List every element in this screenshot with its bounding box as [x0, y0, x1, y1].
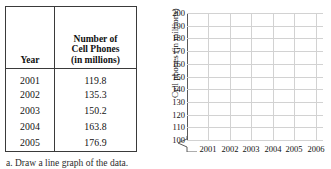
gridline-vertical — [273, 13, 274, 141]
cell-year: 2001 — [6, 69, 55, 87]
cell-value: 163.8 — [55, 119, 137, 135]
cell-value: 135.3 — [55, 87, 137, 103]
cell-value: 119.8 — [55, 69, 137, 87]
table-row: 2002 135.3 — [6, 87, 137, 103]
column-header-line-1: Number of — [55, 34, 136, 45]
axis-break-icon — [175, 136, 197, 152]
cell-phones-data-table: Year Number of Cell Phones (in millions)… — [5, 6, 136, 152]
table-caption: a. Draw a line graph of the data. — [6, 157, 146, 169]
cell-value: 176.9 — [55, 135, 137, 151]
y-tick-label: 130 — [159, 98, 185, 107]
gridline-vertical — [208, 13, 209, 141]
gridline-vertical — [316, 13, 317, 141]
y-tick-label: 160 — [159, 60, 185, 69]
table-head: Year Number of Cell Phones (in millions) — [6, 7, 137, 69]
gridline-vertical — [230, 13, 231, 141]
y-tick-label: 140 — [159, 85, 185, 94]
column-header-line-2: Cell Phones — [55, 44, 136, 55]
table-header-row: Year Number of Cell Phones (in millions) — [6, 7, 137, 69]
column-header-number-of-cell-phones: Number of Cell Phones (in millions) — [55, 7, 137, 69]
y-tick-label: 120 — [159, 111, 185, 120]
y-tick-label: 190 — [159, 22, 185, 31]
x-tick-label: 2006 — [301, 145, 331, 154]
gridline-vertical — [294, 13, 295, 141]
table-row: 2004 163.8 — [6, 119, 137, 135]
gridline-vertical — [251, 13, 252, 141]
table: Year Number of Cell Phones (in millions)… — [5, 6, 137, 152]
y-tick-label: 180 — [159, 34, 185, 43]
table-row: 2001 119.8 — [6, 69, 137, 87]
table-row: 2005 176.9 — [6, 135, 137, 151]
cell-year: 2005 — [6, 135, 55, 151]
cell-year: 2002 — [6, 87, 55, 103]
table-row: 2003 150.2 — [6, 103, 137, 119]
y-tick-label: 150 — [159, 73, 185, 82]
cell-value: 150.2 — [55, 103, 137, 119]
cell-year: 2004 — [6, 119, 55, 135]
y-tick-label: 200 — [159, 9, 185, 18]
y-tick-label: 110 — [159, 123, 185, 132]
table-body: 2001 119.8 2002 135.3 2003 150.2 2004 16… — [6, 69, 137, 152]
line-graph-axes: Cell phones (in millions) 20019018017016… — [152, 0, 331, 169]
column-header-year: Year — [6, 7, 55, 69]
y-tick-label: 170 — [159, 47, 185, 56]
plot-area: 200190180170160150140130120110100 200120… — [187, 13, 323, 141]
column-header-line-3: (in millions) — [55, 55, 136, 66]
cell-year: 2003 — [6, 103, 55, 119]
